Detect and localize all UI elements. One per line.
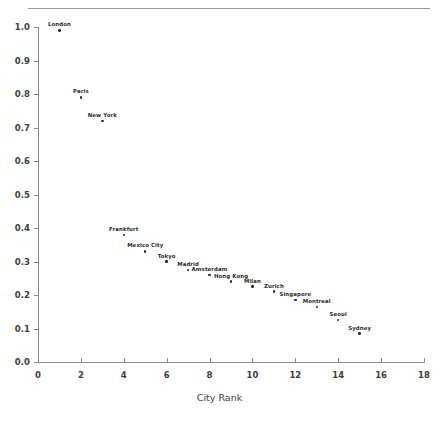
y-axis-tick-label: 0.1 bbox=[0, 324, 30, 334]
x-axis-tick-label: 8 bbox=[195, 370, 225, 380]
y-axis-tick bbox=[34, 161, 39, 162]
x-axis-tick bbox=[424, 358, 425, 363]
x-axis-tick-label: 18 bbox=[409, 370, 439, 380]
data-point-marker bbox=[358, 332, 360, 334]
data-point-label: Zurich bbox=[264, 283, 284, 289]
y-axis-tick bbox=[34, 27, 39, 28]
data-point-marker bbox=[80, 96, 82, 98]
y-axis-tick-label: 0.7 bbox=[0, 123, 30, 133]
x-axis-line bbox=[38, 362, 425, 363]
x-axis-tick bbox=[167, 358, 168, 363]
data-point-label: Amsterdam bbox=[192, 266, 228, 272]
data-point-label: Seoul bbox=[330, 311, 347, 317]
x-axis-tick bbox=[295, 358, 296, 363]
y-axis-tick-label: 0.8 bbox=[0, 89, 30, 99]
data-point-marker bbox=[101, 120, 103, 122]
x-axis-tick bbox=[381, 358, 382, 363]
x-axis-tick-label: 6 bbox=[152, 370, 182, 380]
y-axis-tick bbox=[34, 128, 39, 129]
y-axis-tick-label: 0.2 bbox=[0, 290, 30, 300]
data-point-marker bbox=[316, 306, 318, 308]
data-point-label: Frankfurt bbox=[109, 226, 138, 232]
x-axis-tick-label: 2 bbox=[66, 370, 96, 380]
x-axis-title: City Rank bbox=[0, 392, 439, 403]
y-axis-tick bbox=[34, 329, 39, 330]
x-axis-tick-label: 4 bbox=[109, 370, 139, 380]
y-axis-tick-label: 0.6 bbox=[0, 156, 30, 166]
x-axis-tick-label: 0 bbox=[23, 370, 53, 380]
data-point-label: Paris bbox=[73, 88, 89, 94]
y-axis-tick-label: 0.0 bbox=[0, 357, 30, 367]
y-axis-tick bbox=[34, 228, 39, 229]
data-point-label: London bbox=[48, 21, 71, 27]
data-point-label: Tokyo bbox=[158, 253, 176, 259]
x-axis-tick bbox=[210, 358, 211, 363]
x-axis-tick bbox=[252, 358, 253, 363]
y-axis-tick-label: 0.5 bbox=[0, 190, 30, 200]
data-point-marker bbox=[230, 280, 232, 282]
data-point-marker bbox=[251, 285, 253, 287]
data-point-label: Mexico City bbox=[127, 242, 163, 248]
data-point-marker bbox=[144, 250, 146, 252]
y-axis-tick-label: 0.3 bbox=[0, 257, 30, 267]
x-axis-tick bbox=[38, 358, 39, 363]
y-axis-tick bbox=[34, 94, 39, 95]
x-axis-tick-label: 10 bbox=[237, 370, 267, 380]
data-point-marker bbox=[273, 290, 275, 292]
data-point-marker bbox=[58, 29, 60, 31]
x-axis-tick-label: 16 bbox=[366, 370, 396, 380]
y-axis-tick-label: 0.9 bbox=[0, 56, 30, 66]
scatter-plot: 0.00.10.20.30.40.50.60.70.80.91.0 024681… bbox=[0, 0, 439, 422]
data-point-label: Singapore bbox=[279, 291, 311, 297]
x-axis-tick-label: 14 bbox=[323, 370, 353, 380]
x-axis-tick bbox=[124, 358, 125, 363]
data-point-label: Sydney bbox=[348, 325, 371, 331]
x-axis-tick-label: 12 bbox=[280, 370, 310, 380]
data-point-label: New York bbox=[88, 112, 117, 118]
y-axis-tick bbox=[34, 195, 39, 196]
data-point-marker bbox=[208, 274, 210, 276]
data-point-label: Milan bbox=[244, 278, 261, 284]
data-point-label: Montreal bbox=[303, 298, 331, 304]
y-axis-tick-label: 1.0 bbox=[0, 22, 30, 32]
y-axis-tick bbox=[34, 262, 39, 263]
y-axis-tick bbox=[34, 295, 39, 296]
x-axis-tick bbox=[338, 358, 339, 363]
data-point-marker bbox=[123, 234, 125, 236]
x-axis-tick bbox=[81, 358, 82, 363]
data-point-marker bbox=[294, 299, 296, 301]
y-axis-tick-label: 0.4 bbox=[0, 223, 30, 233]
data-point-marker bbox=[337, 319, 339, 321]
y-axis-tick bbox=[34, 61, 39, 62]
data-point-marker bbox=[165, 260, 167, 262]
data-point-marker bbox=[187, 269, 189, 271]
